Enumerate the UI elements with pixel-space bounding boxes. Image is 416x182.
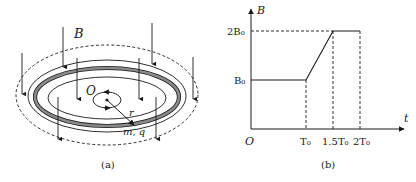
y-tick-2b0: 2B₀ xyxy=(227,26,245,37)
figure-canvas: B O r m, q (a) B t O 2B₀ B₀ T₀ 1.5T₀ 2T₀… xyxy=(0,0,416,182)
particle-label: m, q xyxy=(123,126,145,137)
outer-ring xyxy=(28,60,186,132)
y-axis-label: B xyxy=(256,4,265,17)
y-tick-b0: B₀ xyxy=(234,75,245,86)
x-axis-label: t xyxy=(404,112,409,125)
origin-label: O xyxy=(245,135,254,148)
x-tick-1-5t0: 1.5T₀ xyxy=(322,136,349,147)
inner-ring xyxy=(48,77,166,119)
caption-b: (b) xyxy=(321,159,335,170)
x-tick-2t0: 2T₀ xyxy=(353,136,370,147)
figure-b-field-time-graph: B t O 2B₀ B₀ T₀ 1.5T₀ 2T₀ (b) xyxy=(227,4,409,170)
center-label: O xyxy=(86,84,96,98)
field-label: B xyxy=(73,26,84,41)
figure-a-ring-diagram: B O r m, q (a) xyxy=(16,23,198,170)
caption-a: (a) xyxy=(101,159,115,170)
x-tick-t0: T₀ xyxy=(300,136,311,147)
b-of-t-curve xyxy=(251,31,360,80)
